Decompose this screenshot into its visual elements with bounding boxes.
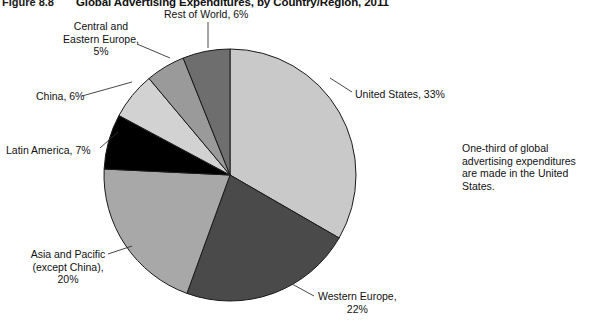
leader-china: [82, 82, 132, 96]
side-annotation: One-third of global advertising expendit…: [462, 142, 590, 192]
pie-label-central-eastern-europe: Central and Eastern Europe, 5%: [48, 20, 154, 58]
pie-label-rest-of-world: Rest of World, 6%: [164, 8, 248, 21]
leader-western-europe: [292, 284, 314, 296]
pie-label-china: China, 6%: [36, 90, 84, 103]
pie-label-western-europe: Western Europe, 22%: [318, 290, 397, 315]
figure-container: Figure 8.8 Global Advertising Expenditur…: [0, 0, 600, 328]
pie-label-asia-pacific: Asia and Pacific (except China), 20%: [16, 248, 120, 286]
leader-united-states: [330, 78, 352, 92]
pie-label-latin-america: Latin America, 7%: [6, 144, 91, 157]
pie-label-united-states: United States, 33%: [355, 88, 445, 101]
pie-slice-group: [104, 49, 356, 301]
